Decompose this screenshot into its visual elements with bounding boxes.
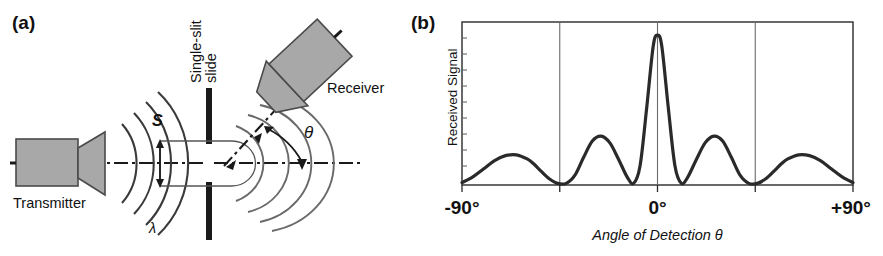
slit-slide-label-line1: Single-slit [188,20,204,83]
x-tick-label-zero: 0° [648,197,666,218]
slit-slide-lower [206,182,212,240]
receiver-label: Receiver [327,80,384,96]
receiver-connector [334,30,341,37]
transmitter-body [16,139,78,186]
slit-slide-upper [206,88,212,144]
transmitter-horn [78,132,105,195]
panel-b-chart: Received Signal [440,0,883,256]
transmitter-label: Transmitter [13,195,86,211]
panel-a-diagram: λ Transmitter Single-slit slide S [0,0,440,256]
panel-b-label: (b) [411,12,435,34]
x-axis-ticks [462,185,853,192]
x-tick-label-max: +90° [831,197,871,218]
slit-width-label: S [152,112,163,129]
y-axis-label: Received Signal [445,48,460,146]
sight-line-arrow-outer [254,133,262,144]
y-axis-ticks [462,38,467,166]
x-tick-label-min: -90° [444,197,479,218]
gridlines [560,22,756,185]
wavelength-label: λ [148,220,156,236]
slit-slide-label-line2: slide [203,53,219,83]
receiver-assembly [246,9,364,125]
slit-aperture-gap [206,144,212,182]
figure-container: (a) λ Transmitter Single-slit slide [0,0,883,256]
x-axis-label: Angle of Detection θ [591,227,723,243]
theta-angle-label: θ [304,123,314,142]
